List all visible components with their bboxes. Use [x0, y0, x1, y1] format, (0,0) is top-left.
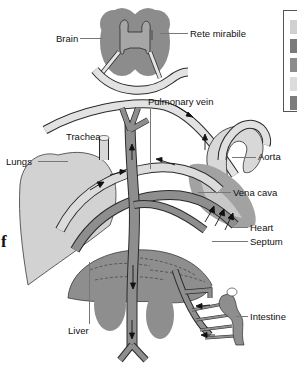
legend-swatch-4 — [290, 77, 297, 91]
kidney-left — [94, 279, 126, 331]
leader-brain — [80, 38, 102, 39]
label-heart: Heart — [250, 223, 273, 233]
label-pulmonary-vein: Pulmonary vein — [148, 97, 213, 107]
leader-lungs — [38, 161, 68, 162]
leader-vena-cava — [198, 192, 231, 193]
label-aorta: Aorta — [258, 152, 281, 162]
leader-rete-mirabile — [160, 33, 188, 34]
leader-pulmonary-vein — [150, 109, 151, 169]
leader-heart — [232, 227, 248, 228]
label-lungs: Lungs — [6, 157, 32, 167]
legend-swatch-5 — [290, 96, 297, 110]
legend-box — [283, 10, 297, 112]
label-liver: Liver — [68, 326, 89, 336]
label-intestine: Intestine — [250, 312, 286, 322]
leader-liver — [89, 262, 90, 324]
label-septum: Septum — [250, 237, 283, 247]
legend-swatch-2 — [290, 39, 297, 53]
leader-septum — [212, 241, 248, 242]
leader-intestine — [236, 316, 248, 317]
label-trachea: Trachea — [66, 132, 101, 142]
label-brain: Brain — [56, 34, 78, 44]
kidney-right — [146, 291, 174, 339]
legend-swatch-1 — [290, 20, 297, 34]
leader-aorta — [232, 157, 256, 158]
label-rete-mirabile: Rete mirabile — [190, 29, 246, 39]
legend-swatch-3 — [290, 58, 297, 72]
cropped-text-fragment: f — [1, 232, 7, 252]
label-vena-cava: Vena cava — [233, 188, 277, 198]
